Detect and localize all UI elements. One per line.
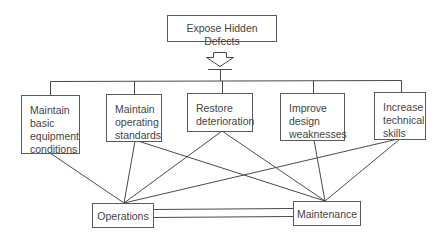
activity-label: Restore deterioration	[188, 94, 252, 128]
activity-label: Improve design weaknesses	[281, 94, 344, 141]
diagram: Expose Hidden Defects Maintain basic equ…	[0, 0, 445, 242]
maintenance-box: Maintenance	[293, 201, 361, 226]
activity-box-maintain-operating-standards: Maintain operating standards	[106, 94, 162, 142]
maintenance-label: Maintenance	[294, 202, 360, 221]
activity-box-improve-design-weaknesses: Improve design weaknesses	[280, 93, 345, 141]
activity-box-maintain-basic-conditions: Maintain basic equipment conditions	[21, 95, 80, 154]
operations-label: Operations	[93, 204, 153, 223]
activity-box-restore-deterioration: Restore deterioration	[187, 93, 253, 132]
activity-label: Increase technical skills	[375, 93, 425, 140]
down-arrow-icon	[207, 53, 234, 67]
activity-label: Maintain basic equipment conditions	[22, 96, 79, 156]
operations-box: Operations	[92, 203, 154, 228]
expose-hidden-defects-label: Expose Hidden Defects	[168, 16, 276, 48]
activity-box-increase-technical-skills: Increase technical skills	[374, 92, 426, 140]
activity-label: Maintain operating standards	[107, 95, 161, 142]
expose-hidden-defects-box: Expose Hidden Defects	[167, 15, 277, 42]
